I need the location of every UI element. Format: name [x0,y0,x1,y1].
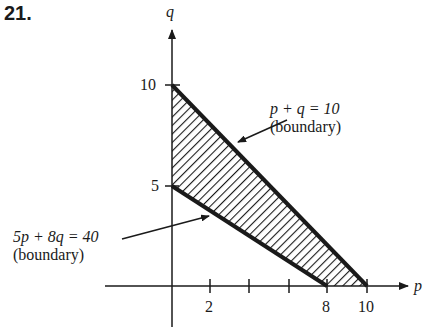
p-tick-label-2: 2 [205,298,213,316]
annotation-note-p-plus-q: (boundary) [270,118,341,136]
p-tick-label-10: 10 [358,298,374,316]
feasible-region-diagram [0,0,426,335]
annotation-note-5p-plus-8q: (boundary) [13,246,84,264]
q-tick-label-5: 5 [151,177,159,195]
q-tick-label-10: 10 [140,76,156,94]
annotation-equation-p-plus-q: p + q = 10 [270,100,340,118]
p-axis-label: p [414,277,422,295]
annotation-arrow-5p-plus-8q [122,216,209,239]
q-axis-label: q [166,3,174,21]
p-tick-label-8: 8 [322,298,330,316]
annotation-equation-5p-plus-8q: 5p + 8q = 40 [13,228,99,246]
